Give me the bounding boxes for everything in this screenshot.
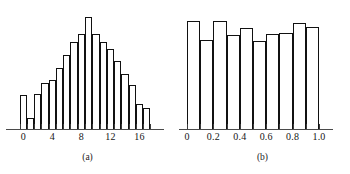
panel-a: 0481216 (a): [0, 0, 175, 174]
histogram-bar: [200, 40, 213, 129]
histogram-a-plot: [16, 12, 154, 129]
axis-tick-label: 1.0: [307, 131, 331, 143]
histogram-bar: [49, 80, 56, 129]
axis-tick: [121, 124, 122, 129]
axis-tick: [200, 124, 201, 129]
histogram-bar: [121, 74, 128, 129]
axis-tick: [306, 124, 307, 129]
panel-b-caption: (b): [175, 152, 350, 162]
histogram-bar: [187, 21, 200, 129]
histogram-bar: [100, 42, 107, 129]
axis-tick: [319, 124, 320, 129]
panel-a-caption: (a): [0, 152, 175, 162]
histogram-bar: [129, 85, 136, 129]
axis-tick-label: 0: [175, 131, 199, 143]
axis-tick: [56, 124, 57, 129]
histogram-bar: [266, 34, 279, 129]
axis-tick: [92, 124, 93, 129]
histogram-a-axis-line: [6, 129, 164, 130]
axis-tick-label: 4: [40, 131, 64, 143]
axis-tick: [240, 124, 241, 129]
histogram-bar: [240, 28, 253, 129]
histogram-bar: [227, 35, 240, 129]
axis-tick: [20, 124, 21, 129]
axis-tick-label: 0.8: [281, 131, 305, 143]
histogram-bar: [63, 55, 70, 129]
axis-tick: [27, 124, 28, 129]
axis-tick-label: 0: [11, 131, 35, 143]
histogram-bar: [20, 95, 27, 129]
axis-tick: [279, 124, 280, 129]
histogram-bar: [107, 49, 114, 129]
histogram-bar: [253, 41, 266, 129]
axis-tick-label: 0.6: [254, 131, 278, 143]
axis-tick: [34, 124, 35, 129]
axis-tick: [78, 124, 79, 129]
axis-tick: [114, 124, 115, 129]
histogram-bar: [27, 118, 34, 129]
axis-tick-label: 0.4: [228, 131, 252, 143]
axis-tick: [107, 124, 108, 129]
histogram-bar: [143, 108, 150, 129]
histogram-bar: [78, 34, 85, 129]
histogram-bar: [213, 21, 226, 129]
axis-tick-label: 12: [98, 131, 122, 143]
axis-tick: [85, 124, 86, 129]
axis-tick: [49, 124, 50, 129]
histogram-bar: [56, 68, 63, 129]
axis-tick-label: 8: [69, 131, 93, 143]
axis-tick: [63, 124, 64, 129]
axis-tick: [100, 124, 101, 129]
histogram-bar: [85, 17, 92, 129]
axis-tick: [213, 124, 214, 129]
histogram-bar: [279, 33, 292, 129]
axis-tick: [266, 124, 267, 129]
histogram-b-bars: [187, 12, 319, 129]
histogram-bar: [136, 104, 143, 129]
axis-tick: [227, 124, 228, 129]
axis-tick: [143, 124, 144, 129]
histogram-bar: [41, 83, 48, 129]
histogram-a-bars: [16, 12, 154, 129]
histogram-bar: [92, 34, 99, 129]
panel-b: 00.20.40.60.81.0 (b): [175, 0, 350, 174]
axis-tick: [187, 124, 188, 129]
histogram-bar: [70, 42, 77, 129]
axis-tick: [253, 124, 254, 129]
axis-tick: [41, 124, 42, 129]
axis-tick: [136, 124, 137, 129]
axis-tick: [293, 124, 294, 129]
axis-tick: [150, 124, 151, 129]
figure-histogram-pair: 0481216 (a) 00.20.40.60.81.0 (b): [0, 0, 350, 174]
axis-tick-label: 16: [127, 131, 151, 143]
histogram-bar: [34, 94, 41, 129]
histogram-b-axis-line: [179, 129, 333, 130]
axis-tick-label: 0.2: [201, 131, 225, 143]
histogram-bar: [293, 23, 306, 129]
axis-tick: [70, 124, 71, 129]
histogram-bar: [306, 27, 319, 129]
histogram-bar: [114, 61, 121, 129]
axis-tick: [129, 124, 130, 129]
histogram-b-plot: [187, 12, 319, 129]
